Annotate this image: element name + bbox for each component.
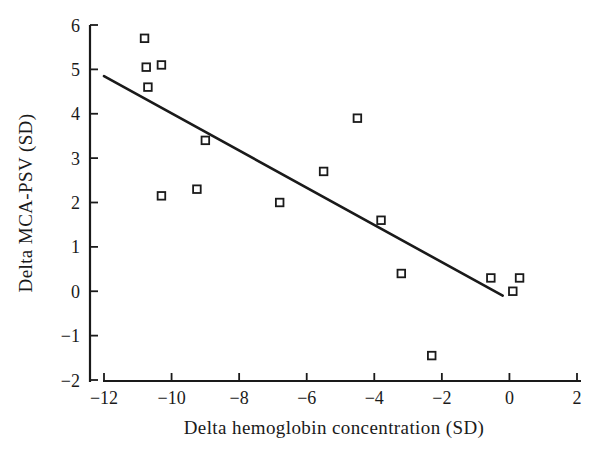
x-tick-label: −10 xyxy=(157,388,185,408)
data-point xyxy=(516,274,524,282)
data-point xyxy=(158,192,166,200)
y-tick-label: −2 xyxy=(61,371,80,391)
data-point xyxy=(144,83,152,91)
data-point xyxy=(428,352,436,360)
data-point xyxy=(202,137,210,145)
y-tick-label: 3 xyxy=(71,149,80,169)
regression-line xyxy=(104,76,503,296)
figure: −2−10123456−12−10−8−6−4−202 Delta hemogl… xyxy=(0,0,603,451)
y-tick-label: 0 xyxy=(71,282,80,302)
data-point xyxy=(158,61,166,69)
y-tick-label: 1 xyxy=(71,237,80,257)
data-point xyxy=(320,168,328,176)
y-tick-label: 5 xyxy=(71,60,80,80)
chart-layer: −2−10123456−12−10−8−6−4−202 xyxy=(61,16,582,409)
x-tick-label: −4 xyxy=(365,388,384,408)
y-tick-label: −1 xyxy=(61,326,80,346)
scatter-plot: −2−10123456−12−10−8−6−4−202 Delta hemogl… xyxy=(0,0,603,451)
y-tick-label: 2 xyxy=(71,193,80,213)
data-point xyxy=(141,35,149,43)
x-axis-label: Delta hemoglobin concentration (SD) xyxy=(184,417,485,439)
x-tick-label: −2 xyxy=(432,388,451,408)
y-tick-label: 4 xyxy=(71,104,80,124)
data-point xyxy=(509,287,517,295)
data-point xyxy=(276,199,284,207)
x-tick-label: −12 xyxy=(90,388,118,408)
x-tick-label: −8 xyxy=(230,388,249,408)
x-tick-label: 0 xyxy=(505,388,514,408)
data-point xyxy=(193,185,201,193)
x-tick-label: −6 xyxy=(297,388,316,408)
data-point xyxy=(487,274,495,282)
y-axis-label: Delta MCA-PSV (SD) xyxy=(15,114,37,293)
data-point xyxy=(398,270,406,278)
data-point xyxy=(377,216,385,224)
y-tick-label: 6 xyxy=(71,16,80,36)
x-tick-label: 2 xyxy=(573,388,582,408)
data-point xyxy=(142,63,150,71)
data-point xyxy=(354,114,362,122)
